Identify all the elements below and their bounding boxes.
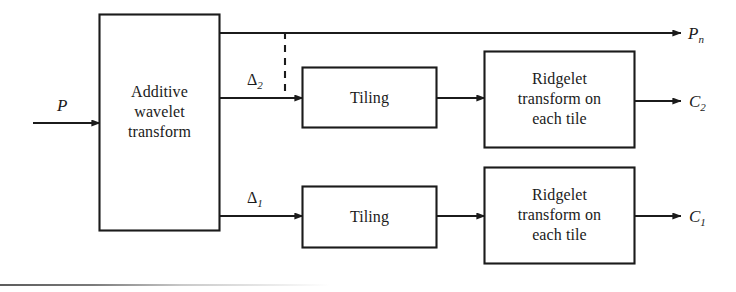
figure-bottom-rule (0, 284, 330, 286)
block-tiling-top (303, 68, 437, 128)
figure-canvas: Additive wavelet transform Tiling Tiling… (0, 0, 736, 292)
signal-label-output-c2: C2 (689, 93, 706, 110)
signal-label-detail-1: Δ1 (247, 190, 263, 206)
block-ridgelet-transform-top (485, 52, 635, 148)
block-diagram (0, 0, 736, 292)
signal-label-detail-2: Δ2 (247, 72, 263, 88)
signal-label-input-p: P (57, 97, 67, 114)
block-additive-wavelet-transform (100, 15, 220, 231)
signal-label-output-pn: Pn (688, 25, 704, 42)
block-ridgelet-transform-bottom (485, 168, 635, 264)
signal-label-output-c1: C1 (689, 208, 706, 225)
block-tiling-bottom (303, 187, 437, 248)
